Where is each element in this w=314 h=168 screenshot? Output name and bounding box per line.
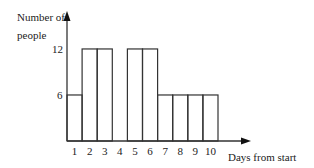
- y-axis-label-line1: Number of: [17, 11, 65, 23]
- bar-day-3: [97, 49, 112, 141]
- bar-day-9: [188, 95, 203, 141]
- bar-day-10: [203, 95, 218, 141]
- bar-day-2: [82, 49, 97, 141]
- y-axis-label-line2: people: [17, 29, 65, 41]
- y-tick-12: 12: [52, 43, 63, 55]
- x-axis-label: Days from start: [228, 151, 296, 163]
- bar-day-7: [158, 95, 173, 141]
- bar-day-5: [127, 49, 142, 141]
- x-tick-10: 10: [198, 145, 222, 157]
- bar-day-6: [143, 49, 158, 141]
- bar-day-1: [67, 95, 82, 141]
- y-tick-6: 6: [57, 89, 63, 101]
- x-axis-arrow-icon: [241, 138, 251, 145]
- y-axis-label: Number of people: [17, 11, 65, 41]
- bar-day-8: [173, 95, 188, 141]
